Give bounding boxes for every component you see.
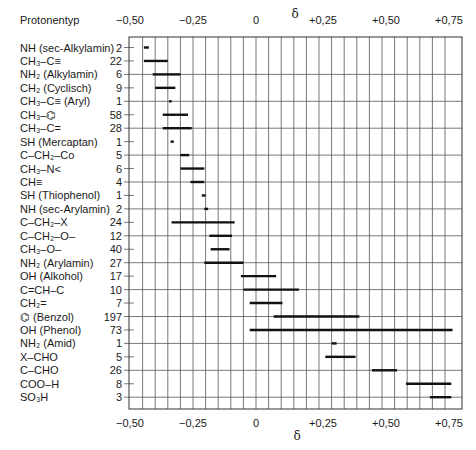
row-label: NH (sec-Arylamin) (20, 203, 110, 215)
row-count: 3 (116, 391, 122, 403)
row-label: X–CHO (20, 351, 58, 363)
row-count: 28 (110, 122, 122, 134)
chart-row: SH (Thiophenol)1 (20, 189, 206, 201)
x-axis-bottom-tick-labels: −0,50−0,250+0,25+0,50+0,75 (116, 417, 463, 429)
row-label: C–CH₂–O– (20, 230, 76, 242)
row-count: 1 (116, 337, 122, 349)
chart-row: CH₂ (Cyclisch)9 (20, 82, 175, 94)
row-label: SO₃H (20, 391, 48, 403)
row-label: C=CH–C (20, 284, 64, 296)
chart-row: C–CHO26 (20, 364, 462, 376)
x-axis-top-tick-labels: −0,50−0,250+0,25+0,50+0,75 (116, 14, 463, 26)
row-label: CH₃–C≡ (Aryl) (20, 95, 90, 107)
chart-row: C–CH₂–X24 (20, 216, 235, 228)
chart-row: X–CHO5 (20, 351, 356, 363)
row-count: 1 (116, 95, 122, 107)
chart-row: CH₃–O–40 (20, 243, 230, 255)
x-axis-title-bottom: δ (293, 429, 300, 443)
x-tick-label-bottom: 0 (253, 417, 259, 429)
row-count: 7 (116, 297, 122, 309)
chart-row: CH₃–C=28 (20, 122, 462, 134)
row-label: CH₂= (20, 297, 47, 309)
row-count: 2 (116, 203, 122, 215)
row-count: 2 (116, 42, 122, 54)
row-label: C–CH₂–X (20, 216, 68, 228)
x-tick-label-bottom: +0,25 (309, 417, 337, 429)
row-count: 1 (116, 189, 122, 201)
row-label: CH≡ (20, 176, 42, 188)
row-count: 5 (116, 351, 122, 363)
row-count: 6 (116, 68, 122, 80)
row-label: CH₃–O– (20, 243, 62, 255)
x-tick-label-top: −0,50 (116, 14, 144, 26)
x-tick-label-bottom: +0,50 (372, 417, 400, 429)
x-tick-label-top: −0,25 (179, 14, 207, 26)
row-label: NH₂ (Amid) (20, 337, 76, 349)
row-label: C–CHO (20, 364, 59, 376)
row-label: CH₃–N< (20, 163, 61, 175)
row-count: 6 (116, 163, 122, 175)
chart-row: NH (sec-Arylamin)2 (20, 203, 462, 215)
x-tick-label-top: +0,25 (309, 14, 337, 26)
chart-row: NH₂ (Alkylamin)6 (20, 68, 462, 80)
chart-row: OH (Phenol)73 (20, 324, 453, 336)
row-label: COO–H (20, 378, 59, 390)
column-header-protonentyp: Protonentyp (20, 14, 79, 26)
row-count: 5 (116, 149, 122, 161)
chart-row: CH₃–C≡22 (20, 55, 168, 67)
row-count: 10 (110, 284, 122, 296)
x-tick-label-bottom: −0,25 (179, 417, 207, 429)
chart-row: NH (sec-Alkylamin)2 (20, 42, 149, 54)
row-count: 58 (110, 109, 122, 121)
row-count: 8 (116, 378, 122, 390)
chart-row: CH≡4 (20, 176, 462, 188)
row-count: 73 (110, 324, 122, 336)
x-axis-title-top: δ (291, 7, 298, 21)
chart-row: SH (Mercaptan)1 (20, 136, 174, 148)
proton-shift-chart: Protonentyp δ δ −0,50−0,250+0,25+0,50+0,… (0, 0, 476, 450)
chart-row: COO–H8 (20, 378, 451, 390)
row-label: SH (Thiophenol) (20, 189, 100, 201)
chart-row: NH₂ (Amid)1 (20, 337, 462, 349)
row-count: 26 (110, 364, 122, 376)
row-label: OH (Phenol) (20, 324, 81, 336)
chart-row: CH₃–⌬58 (20, 109, 188, 121)
row-count: 197 (104, 311, 122, 323)
row-label: ⌬ (Benzol) (20, 311, 74, 323)
row-label: CH₃–C= (20, 122, 61, 134)
row-count: 1 (116, 136, 122, 148)
chart-row: C–CH₂–Co5 (20, 149, 462, 161)
row-label: CH₃–C≡ (20, 55, 61, 67)
row-count: 24 (110, 216, 122, 228)
chart-row: OH (Alkohol)17 (20, 270, 276, 282)
row-count: 27 (110, 257, 122, 269)
chart-row: ⌬ (Benzol)197 (20, 311, 462, 323)
row-count: 12 (110, 230, 122, 242)
x-tick-label-bottom: −0,50 (116, 417, 144, 429)
row-count: 22 (110, 55, 122, 67)
x-tick-label-bottom: +0,75 (435, 417, 463, 429)
row-count: 17 (110, 270, 122, 282)
row-label: NH₂ (Arylamin) (20, 257, 93, 269)
chart-row: NH₂ (Arylamin)27 (20, 257, 462, 269)
x-tick-label-top: 0 (253, 14, 259, 26)
row-count: 4 (116, 176, 122, 188)
row-label: NH₂ (Alkylamin) (20, 68, 98, 80)
x-tick-label-top: +0,75 (435, 14, 463, 26)
chart-row: SO₃H3 (20, 391, 462, 403)
x-tick-label-top: +0,50 (372, 14, 400, 26)
row-label: CH₃–⌬ (20, 109, 57, 121)
data-rows: NH (sec-Alkylamin)2CH₃–C≡22NH₂ (Alkylami… (20, 42, 462, 404)
row-label: OH (Alkohol) (20, 270, 83, 282)
chart-row: C=CH–C10 (20, 284, 462, 296)
row-label: C–CH₂–Co (20, 149, 74, 161)
row-label: SH (Mercaptan) (20, 136, 98, 148)
chart-row: C–CH₂–O–12 (20, 230, 462, 242)
chart-row: CH₃–C≡ (Aryl)1 (20, 95, 462, 107)
row-label: CH₂ (Cyclisch) (20, 82, 92, 94)
row-label: NH (sec-Alkylamin) (20, 42, 114, 54)
chart-row: CH₃–N<6 (20, 163, 204, 175)
row-count: 9 (116, 82, 122, 94)
row-count: 40 (110, 243, 122, 255)
